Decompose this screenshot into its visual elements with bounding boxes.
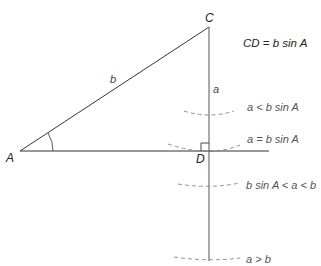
vertex-c-label: C (205, 12, 214, 24)
arc-case-4 (174, 257, 240, 260)
case-label-3: b sin A < a < b (246, 180, 316, 191)
side-a-label: a (213, 84, 219, 95)
side-b-line (20, 27, 209, 151)
cd-equation: CD = b sin A (243, 38, 307, 50)
arc-case-2 (168, 144, 240, 151)
angle-a-arc (48, 133, 53, 151)
right-angle-marker (201, 143, 209, 151)
case-label-4: a > b (246, 254, 271, 265)
vertex-a-label: A (6, 152, 14, 164)
case-label-2: a = b sin A (247, 134, 299, 145)
case-label-1: a < b sin A (247, 102, 299, 113)
side-b-label: b (110, 74, 116, 85)
vertex-d-label: D (196, 153, 205, 165)
